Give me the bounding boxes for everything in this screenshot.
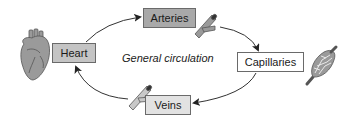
diagram-title: General circulation bbox=[122, 52, 214, 64]
node-heart: Heart bbox=[52, 43, 96, 63]
node-capillaries-label: Capillaries bbox=[245, 56, 296, 68]
node-veins: Veins bbox=[145, 95, 191, 115]
node-arteries: Arteries bbox=[143, 8, 196, 28]
circulation-diagram: Heart Arteries Capillaries Veins General… bbox=[0, 0, 352, 122]
node-arteries-label: Arteries bbox=[151, 12, 189, 24]
node-capillaries: Capillaries bbox=[237, 52, 304, 72]
node-heart-label: Heart bbox=[61, 47, 88, 59]
node-veins-label: Veins bbox=[155, 99, 182, 111]
